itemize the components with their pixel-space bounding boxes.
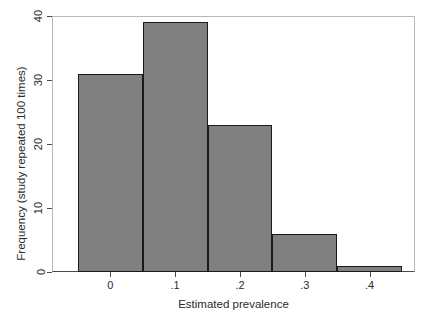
y-tick-mark	[47, 208, 52, 209]
histogram-bar	[208, 125, 273, 272]
x-tick-mark	[240, 272, 241, 277]
histogram-bar	[143, 22, 208, 272]
y-tick-mark	[47, 80, 52, 81]
y-tick-mark	[47, 16, 52, 17]
histogram-screenshot: 0.1.2.3.4 010203040 Estimated prevalence…	[0, 0, 431, 327]
x-tick-mark	[305, 272, 306, 277]
y-axis-title: Frequency (study repeated 100 times)	[11, 0, 31, 327]
x-tick-label: .2	[220, 278, 260, 292]
x-tick-mark	[110, 272, 111, 277]
x-tick-mark	[370, 272, 371, 277]
y-tick-mark	[47, 144, 52, 145]
x-tick-label: .4	[350, 278, 390, 292]
y-tick-mark	[47, 272, 52, 273]
x-tick-label: .3	[285, 278, 325, 292]
histogram-bar	[78, 74, 143, 272]
histogram-bar	[272, 234, 337, 272]
x-tick-label: .1	[155, 278, 195, 292]
x-tick-label: 0	[90, 278, 130, 292]
x-tick-mark	[175, 272, 176, 277]
x-axis-title: Estimated prevalence	[52, 298, 415, 310]
bar-series	[52, 16, 415, 272]
